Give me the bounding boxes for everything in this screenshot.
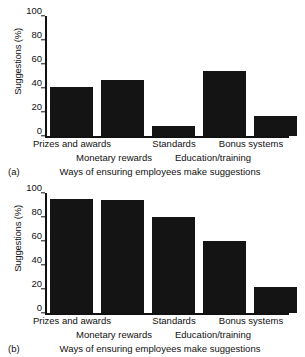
y-tick-100: 100 [26,183,42,193]
x-group-education-training-a: Education/training [175,152,251,163]
y-axis-label-a: Suggestions (%) [12,12,23,112]
bar-education-training-b [203,241,246,313]
panel-letter-a: (a) [8,166,20,177]
x-category-prizes-and-awards-b: Prizes and awards [33,315,111,326]
bar-bonus-systems-a [254,116,297,136]
chart-figure-b: Suggestions (%) 100 80 60 40 20 0 Prizes… [0,177,305,353]
bar-group-a [46,16,276,136]
x-category-standards-b: Standards [152,315,195,326]
group-label-row-b: Monetary rewards Education/training [0,329,305,342]
bar-monetary-rewards-b [101,200,144,313]
bar-group-b [46,193,276,313]
chart-figure-a: Suggestions (%) 100 80 60 40 20 0 Prizes… [0,0,305,176]
y-axis-label-b: Suggestions (%) [12,189,23,289]
x-axis-title-b: Ways of ensuring employees make suggesti… [60,343,261,354]
bar-bonus-systems-b [254,287,297,313]
bar-prizes-and-awards-b [50,199,93,313]
bar-prizes-and-awards-a [50,87,93,136]
x-group-education-training-b: Education/training [175,329,251,340]
bar-monetary-rewards-a [101,80,144,136]
category-label-row-b: Prizes and awards Standards Bonus system… [0,315,305,328]
bar-standards-a [152,126,195,136]
y-axis-tick-labels-b: 100 80 60 40 20 0 [22,188,44,314]
x-category-prizes-and-awards-a: Prizes and awards [33,138,111,149]
y-axis-tick-labels-a: 100 80 60 40 20 0 [22,11,44,137]
plot-area-b: Suggestions (%) 100 80 60 40 20 0 [0,177,305,319]
plot-area-a: Suggestions (%) 100 80 60 40 20 0 [0,0,305,142]
panel-letter-b: (b) [8,343,20,354]
x-category-bonus-systems-b: Bonus systems [219,315,283,326]
bar-standards-b [152,217,195,313]
category-label-row-a: Prizes and awards Standards Bonus system… [0,138,305,151]
x-axis-caption-a: Prizes and awards Standards Bonus system… [0,138,305,180]
x-group-monetary-rewards-b: Monetary rewards [76,329,152,340]
y-tick-100: 100 [26,6,42,16]
group-label-row-a: Monetary rewards Education/training [0,152,305,165]
axis-title-row-b: (b) Ways of ensuring employees make sugg… [0,343,305,357]
x-category-bonus-systems-a: Bonus systems [219,138,283,149]
x-category-standards-a: Standards [152,138,195,149]
x-axis-title-a: Ways of ensuring employees make suggesti… [60,166,261,177]
x-group-monetary-rewards-a: Monetary rewards [76,152,152,163]
bar-education-training-a [203,71,246,136]
x-axis-caption-b: Prizes and awards Standards Bonus system… [0,315,305,357]
